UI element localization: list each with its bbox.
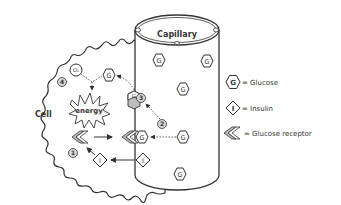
legend-receptor-label: = Glucose receptor	[244, 130, 312, 138]
energy-label: energy	[75, 107, 103, 115]
legend: G = Glucose I = Insulin = Glucose recept…	[224, 76, 312, 140]
svg-text:O₂: O₂	[73, 67, 80, 73]
svg-text:G: G	[180, 134, 185, 142]
oxygen-icon: O₂	[70, 64, 82, 76]
diagram-canvas: Capillary Cell G G G G G G O₂ 4 energy	[0, 0, 341, 205]
glucose-icon: G	[177, 131, 189, 143]
step-3-badge: 3	[137, 94, 146, 103]
cell-label: Cell	[35, 110, 52, 119]
svg-text:G: G	[177, 171, 182, 179]
glucose-icon: G	[136, 131, 148, 143]
step-4-badge: 4	[58, 78, 67, 87]
svg-text:1: 1	[71, 149, 75, 156]
capillary	[135, 15, 219, 190]
svg-text:G: G	[139, 134, 144, 142]
glucose-icon: G	[177, 83, 189, 95]
svg-text:I: I	[232, 105, 235, 113]
svg-text:G: G	[180, 86, 185, 94]
svg-text:G: G	[132, 93, 136, 99]
svg-text:3: 3	[139, 94, 143, 101]
glucose-icon: G	[201, 55, 213, 67]
svg-text:2: 2	[160, 120, 164, 127]
svg-text:G: G	[230, 79, 236, 87]
step-2-badge: 2	[158, 120, 167, 129]
svg-text:G: G	[106, 72, 111, 80]
legend-insulin-icon: I	[226, 101, 240, 115]
step-1-badge: 1	[69, 149, 78, 158]
svg-text:I: I	[142, 157, 144, 165]
legend-glucose-label: = Glucose	[242, 79, 278, 87]
legend-receptor-icon	[224, 127, 240, 139]
capillary-label: Capillary	[157, 30, 198, 39]
glucose-icon: G	[153, 54, 165, 66]
svg-text:I: I	[99, 157, 101, 165]
legend-glucose-icon: G	[226, 76, 240, 89]
svg-text:4: 4	[60, 78, 64, 85]
svg-text:G: G	[156, 57, 161, 65]
glucose-icon: G	[103, 69, 115, 81]
legend-insulin-label: = Insulin	[242, 105, 273, 113]
svg-text:G: G	[204, 58, 209, 66]
glucose-icon: G	[174, 168, 186, 180]
